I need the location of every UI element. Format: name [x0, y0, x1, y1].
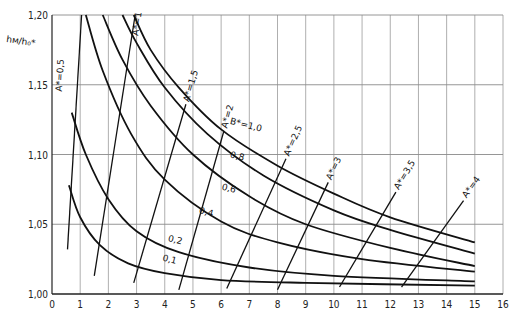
x-tick-label: 3	[134, 299, 140, 310]
x-tick-label: 6	[218, 299, 224, 310]
curve-label: 0,1	[161, 253, 177, 266]
x-tick-label: 1	[77, 299, 83, 310]
curve-0,2	[72, 113, 475, 282]
iso-label: A*=4	[460, 174, 482, 199]
y-tick-label: 1,20	[28, 10, 48, 21]
x-tick-label: 7	[246, 299, 252, 310]
x-tick-label: 2	[106, 299, 112, 310]
x-tick-label: 4	[162, 299, 168, 310]
curve-label: 0,6	[221, 182, 238, 195]
x-tick-label: 11	[356, 299, 367, 310]
curve-label: 0,2	[167, 233, 183, 246]
iso-label: A*=3	[324, 155, 343, 181]
curve-label: B*=1,0	[229, 116, 263, 134]
iso-line	[134, 104, 186, 283]
y-axis-label: hм/h₀*	[6, 34, 37, 48]
iso-line	[340, 192, 396, 287]
x-tick-label: 16	[497, 299, 509, 310]
x-tick-label: 15	[469, 299, 480, 310]
x-tick-label: 8	[275, 299, 281, 310]
iso-label: A*=2,5	[282, 124, 305, 158]
x-tick-label: 10	[328, 299, 340, 310]
iso-label: A*=3,5	[392, 158, 417, 191]
iso-label: A*=0,5	[54, 59, 66, 92]
x-tick-label: 5	[190, 299, 196, 310]
y-tick-label: 1,10	[28, 150, 48, 161]
x-tick-label: 13	[413, 299, 424, 310]
iso-line	[402, 201, 464, 287]
curve-0,4	[86, 15, 475, 272]
curves: B*=1,00,80,60,40,20,1	[69, 15, 475, 286]
x-tick-label: 12	[385, 299, 396, 310]
curve-label: 0,8	[229, 150, 246, 163]
grid	[52, 15, 503, 294]
y-tick-label: 1,15	[28, 80, 48, 91]
y-tick-label: 1,00	[28, 289, 48, 300]
chart: 0123456789101112131415161,001,051,101,15…	[0, 0, 514, 317]
x-tick-label: 14	[441, 299, 453, 310]
x-tick-label: 0	[49, 299, 55, 310]
curve-B*=1,0	[134, 15, 475, 242]
x-tick-label: 9	[303, 299, 309, 310]
iso-line	[94, 15, 135, 276]
y-tick-label: 1,05	[28, 219, 48, 230]
iso-label: A*=1,5	[181, 69, 200, 103]
